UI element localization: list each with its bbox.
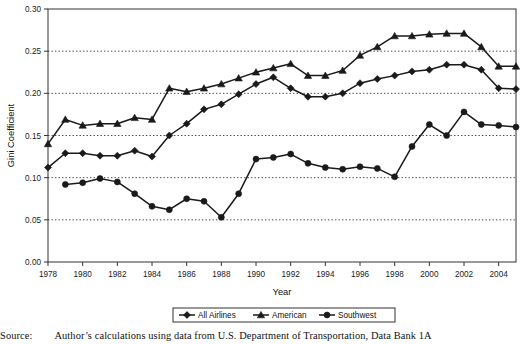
data-point-circle bbox=[478, 122, 484, 128]
data-point-circle bbox=[322, 165, 328, 171]
x-axis-tick-label: 2004 bbox=[490, 270, 509, 279]
data-point-circle bbox=[62, 181, 68, 187]
caption-lead: Source: bbox=[0, 330, 32, 341]
data-point-circle bbox=[270, 154, 276, 160]
data-point-circle bbox=[201, 198, 207, 204]
data-point-circle bbox=[218, 214, 224, 220]
y-axis-tick-label: 0.05 bbox=[25, 216, 41, 225]
y-axis-tick-label: 0.30 bbox=[25, 5, 41, 14]
data-point-circle bbox=[496, 122, 502, 128]
data-point-circle bbox=[80, 180, 86, 186]
figure-caption: Source:Author’s calculations using data … bbox=[0, 330, 525, 341]
y-axis-tick-label: 0.10 bbox=[25, 174, 41, 183]
x-axis-tick-label: 1992 bbox=[282, 270, 301, 279]
figure-container: 0.000.050.100.150.200.250.30197819801982… bbox=[0, 0, 525, 344]
data-point-circle bbox=[357, 164, 363, 170]
data-point-circle bbox=[305, 160, 311, 166]
x-axis-tick-label: 1980 bbox=[74, 270, 93, 279]
x-axis-tick-label: 1998 bbox=[386, 270, 405, 279]
data-point-circle bbox=[426, 122, 432, 128]
x-axis-title: Year bbox=[273, 286, 292, 297]
x-axis-tick-label: 2002 bbox=[455, 270, 474, 279]
x-axis-tick-label: 1984 bbox=[143, 270, 162, 279]
data-point-circle bbox=[461, 109, 467, 115]
y-axis-tick-label: 0.00 bbox=[25, 258, 41, 267]
data-point-circle bbox=[374, 165, 380, 171]
legend-item-label: American bbox=[272, 311, 307, 320]
y-axis-tick-label: 0.25 bbox=[25, 47, 41, 56]
y-axis-tick-label: 0.15 bbox=[25, 132, 41, 141]
x-axis-tick-label: 1988 bbox=[212, 270, 231, 279]
x-axis-tick-label: 1994 bbox=[316, 270, 335, 279]
data-point-circle bbox=[253, 156, 259, 162]
data-point-circle bbox=[409, 143, 415, 149]
data-point-circle bbox=[340, 166, 346, 172]
x-axis-tick-label: 2000 bbox=[420, 270, 439, 279]
x-axis-tick-label: 1978 bbox=[39, 270, 58, 279]
data-point-circle bbox=[97, 176, 103, 182]
y-axis-tick-label: 0.20 bbox=[25, 89, 41, 98]
data-point-circle bbox=[114, 179, 120, 185]
x-axis-tick-label: 1996 bbox=[351, 270, 370, 279]
data-point-circle bbox=[184, 196, 190, 202]
data-point-circle bbox=[444, 133, 450, 139]
data-point-circle bbox=[166, 207, 172, 213]
legend-item-label: All Airlines bbox=[198, 311, 236, 320]
gini-coefficient-line-chart: 0.000.050.100.150.200.250.30197819801982… bbox=[0, 0, 525, 330]
x-axis-tick-label: 1982 bbox=[108, 270, 127, 279]
data-point-circle bbox=[149, 203, 155, 209]
data-point-circle bbox=[324, 312, 330, 318]
data-point-circle bbox=[288, 151, 294, 157]
x-axis-tick-label: 1986 bbox=[178, 270, 197, 279]
chart-legend: All AirlinesAmericanSouthwest bbox=[173, 308, 395, 322]
caption-text: Author’s calculations using data from U.… bbox=[54, 330, 431, 341]
data-point-circle bbox=[513, 124, 519, 130]
y-axis-title: Gini Coefficient bbox=[5, 103, 16, 167]
data-point-circle bbox=[236, 191, 242, 197]
x-axis-tick-label: 1990 bbox=[247, 270, 266, 279]
data-point-circle bbox=[392, 174, 398, 180]
legend-item-label: Southwest bbox=[338, 311, 377, 320]
data-point-circle bbox=[132, 191, 138, 197]
